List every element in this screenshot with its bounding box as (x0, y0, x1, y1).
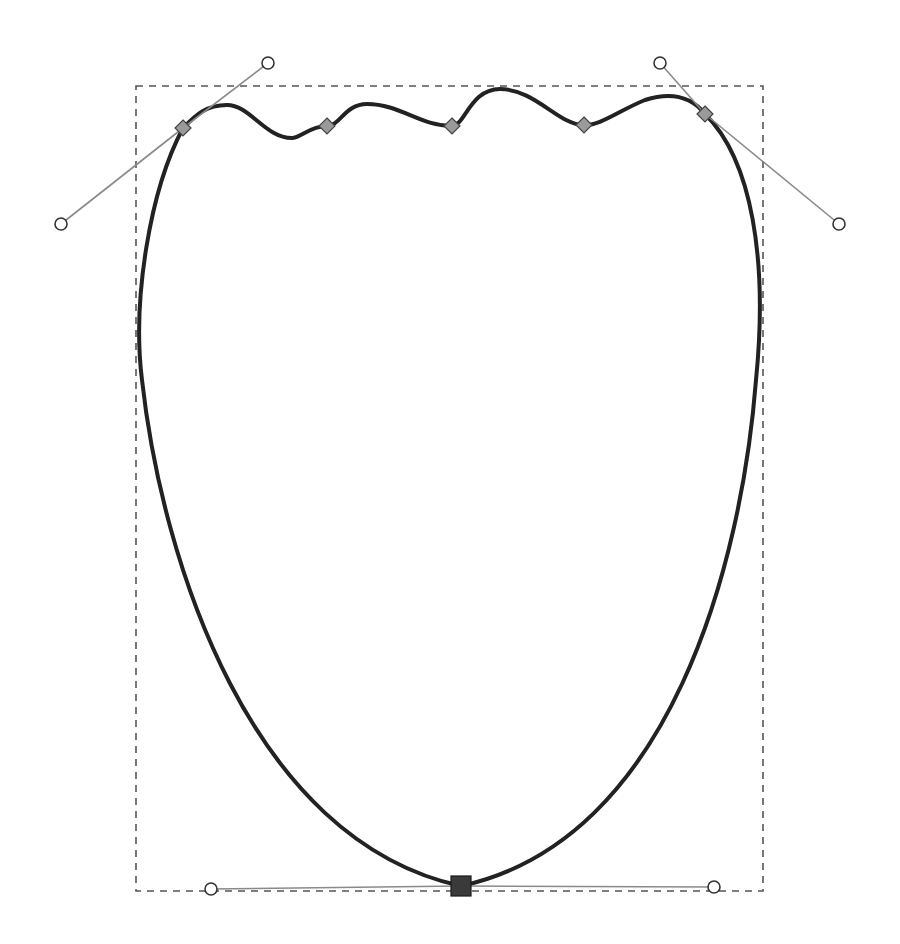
handle-bottom-right-line (461, 886, 714, 887)
node-bottom-selected-node[interactable] (451, 876, 471, 896)
handle-top-left-out-knob[interactable] (262, 57, 274, 69)
handle-top-left-in-knob[interactable] (55, 218, 67, 230)
handle-bottom-left-line (211, 886, 461, 889)
vector-stage[interactable] (0, 0, 900, 944)
handle-top-right-out-line (705, 114, 839, 224)
selection-bounding-box (136, 86, 763, 891)
handle-top-right-in-line (660, 63, 705, 114)
node-wave-2-node[interactable] (444, 118, 460, 134)
bezier-handle-knobs[interactable] (55, 57, 845, 895)
handle-top-right-in-knob[interactable] (654, 57, 666, 69)
handle-top-right-out-knob[interactable] (833, 218, 845, 230)
path-nodes[interactable] (175, 106, 713, 896)
handle-bottom-left-knob[interactable] (205, 883, 217, 895)
bezier-handle-lines (61, 63, 839, 889)
drawing-canvas[interactable] (0, 0, 900, 944)
node-wave-3-node[interactable] (576, 117, 592, 133)
handle-bottom-right-knob[interactable] (708, 881, 720, 893)
node-wave-1-node[interactable] (319, 118, 335, 134)
vase-shape-path[interactable] (139, 89, 760, 886)
